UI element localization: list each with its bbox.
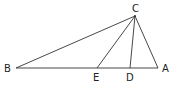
label-e: E	[93, 72, 99, 83]
segment-bc	[16, 16, 135, 68]
vertex-c-dot	[134, 15, 136, 17]
label-d: D	[126, 72, 134, 83]
label-b: B	[4, 63, 11, 74]
label-c: C	[132, 3, 139, 14]
triangle-diagram: C B A E D	[0, 0, 180, 85]
label-a: A	[162, 63, 169, 74]
segment-cd	[130, 16, 135, 68]
segment-ca	[135, 16, 158, 68]
segment-ce	[97, 16, 135, 68]
